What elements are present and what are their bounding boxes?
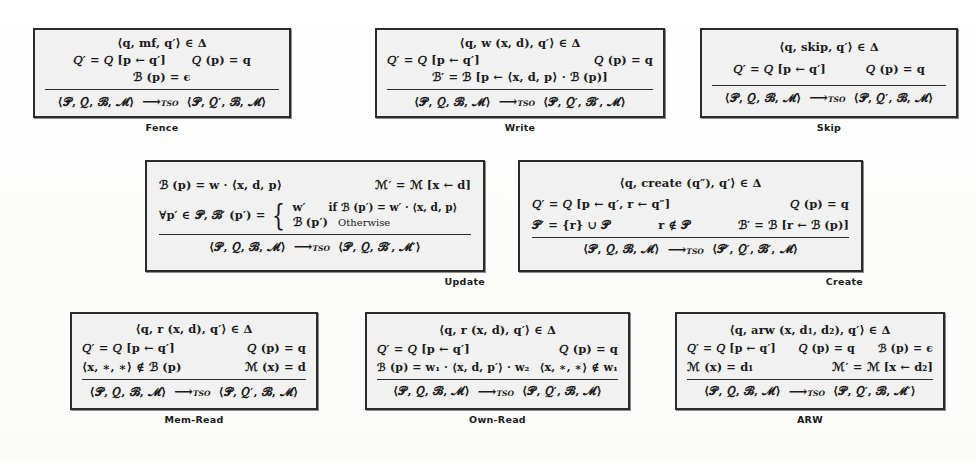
premises-create: ⟨q, create (q″), q′⟩ ∈ Δ 𝑄′ = 𝑄 [p ← q′,… [532,176,849,235]
premise-transition: ⟨q, r (x, d), q′⟩ ∈ Δ [439,323,556,337]
conclusion-create: ⟨𝒫, 𝑄, ℬ, ℳ⟩ ⟶TSO ⟨𝒫′, 𝑄′, ℬ′, ℳ⟩ [532,242,849,257]
conclusion-write: ⟨𝒫, 𝑄, ℬ, ℳ⟩ ⟶TSO ⟨𝒫, 𝑄′, ℬ′, ℳ⟩ [387,94,653,109]
config-after: ⟨𝒫, 𝑄′, ℬ, ℳ⟩ [187,95,267,109]
rule-caption-own-read: Own-Read [365,414,630,425]
premises-arw: ⟨q, arw (x, d₁, d₂), q′⟩ ∈ Δ 𝑄′ = 𝑄 [p ←… [687,323,933,377]
rule-update: ℬ (p) = w · ⟨x, d, p⟩ ℳ′ = ℳ [x ← d] ∀p′… [145,160,485,287]
tso-transition-arrow: ⟶TSO [668,242,704,257]
premise-proc-fresh: r ∉ 𝒫 [658,218,690,232]
premise-memory-read: ℳ (x) = d₁ [687,360,753,374]
premise-proc-set: 𝒫′ = {r} ∪ 𝒫 [532,218,610,232]
conclusion-skip: ⟨𝒫, 𝑄, ℬ, ℳ⟩ ⟶TSO ⟨𝒫, 𝑄′, ℬ, ℳ⟩ [712,90,946,105]
premises-update: ℬ (p) = w · ⟨x, d, p⟩ ℳ′ = ℳ [x ← d] ∀p′… [159,178,471,232]
config-after: ⟨𝒫, 𝑄′, ℬ, ℳ⟩ [522,384,602,398]
rule-write: ⟨q, w (x, d), q′⟩ ∈ Δ 𝑄′ = 𝑄 [p ← q′] 𝑄 … [375,28,665,133]
tso-transition-arrow: ⟶TSO [142,94,178,109]
rule-create: ⟨q, create (q″), q′⟩ ∈ Δ 𝑄′ = 𝑄 [p ← q′,… [518,160,863,287]
config-after: ⟨𝒫, 𝑄, ℬ′, ℳ′⟩ [338,240,421,254]
rule-caption-create: Create [518,276,863,287]
premise-state-current: 𝑄 (p) = q [798,342,854,355]
config-before: ⟨𝒫, 𝑄, ℬ, ℳ⟩ [583,242,660,256]
rule-box-update: ℬ (p) = w · ⟨x, d, p⟩ ℳ′ = ℳ [x ← d] ∀p′… [145,160,485,272]
premise-state-update: 𝑄′ = 𝑄 [p ← q′] [82,341,175,355]
premises-own-read: ⟨q, r (x, d), q′⟩ ∈ Δ 𝑄′ = 𝑄 [p ← q′] 𝑄 … [377,323,618,377]
premises-skip: ⟨q, skip, q′⟩ ∈ Δ 𝑄′ = 𝑄 [p ← q′] 𝑄 (p) … [712,40,946,83]
premise-state-current: 𝑄 (p) = q [247,341,306,355]
premise-state-current: 𝑄 (p) = q [192,53,251,67]
conclusion-update: ⟨𝒫, 𝑄, ℬ, ℳ⟩ ⟶TSO ⟨𝒫, 𝑄, ℬ′, ℳ′⟩ [159,239,471,254]
premise-buffer-empty: ℬ (p) = ϵ [133,70,190,84]
rule-box-create: ⟨q, create (q″), q′⟩ ∈ Δ 𝑄′ = 𝑄 [p ← q′,… [518,160,863,272]
premise-state-update: 𝑄′ = 𝑄 [p ← q′, r ← q″] [532,197,670,211]
conclusion-fence: ⟨𝒫, 𝑄, ℬ, ℳ⟩ ⟶TSO ⟨𝒫, 𝑄′, ℬ, ℳ⟩ [45,94,279,109]
premise-state-update: 𝑄′ = 𝑄 [p ← q′] [73,53,166,67]
config-after: ⟨𝒫, 𝑄′, ℬ′, ℳ⟩ [543,95,626,109]
tso-transition-arrow: ⟶TSO [809,90,845,105]
config-after: ⟨𝒫, 𝑄′, ℬ, ℳ⟩ [854,91,934,105]
rule-caption-arw: ARW [675,414,945,425]
premise-transition: ⟨q, mf, q′⟩ ∈ Δ [117,36,206,50]
inference-line [82,379,306,380]
premise-transition: ⟨q, skip, q′⟩ ∈ Δ [779,40,879,54]
rule-box-fence: ⟨q, mf, q′⟩ ∈ Δ 𝑄′ = 𝑄 [p ← q′] 𝑄 (p) = … [33,28,291,118]
premise-state-current: 𝑄 (p) = q [866,62,925,76]
config-before: ⟨𝒫, 𝑄, ℬ, ℳ⟩ [704,384,781,398]
config-before: ⟨𝒫, 𝑄, ℬ, ℳ⟩ [393,384,470,398]
rule-caption-fence: Fence [33,122,291,133]
inference-line [712,85,946,86]
piecewise-definition: ∀p′ ∈ 𝒫, ℬ′ (p′) = { w′ if ℬ (p′) = w′ ·… [159,200,457,229]
inference-line [159,234,471,235]
case-condition: Otherwise [338,217,390,228]
premises-write: ⟨q, w (x, d), q′⟩ ∈ Δ 𝑄′ = 𝑄 [p ← q′] 𝑄 … [387,36,653,87]
premise-no-earlier-write: ⟨x, ∗, ∗⟩ ∉ w₁ [539,361,618,374]
rule-mem-read: ⟨q, r (x, d), q′⟩ ∈ Δ 𝑄′ = 𝑄 [p ← q′] 𝑄 … [70,312,318,425]
premise-transition: ⟨q, create (q″), q′⟩ ∈ Δ [619,176,761,190]
premise-buffer-update: ℬ′ = ℬ [p ← ⟨x, d, p⟩ · ℬ (p)] [432,70,608,84]
premise-state-current: 𝑄 (p) = q [790,197,849,211]
premise-state-current: 𝑄 (p) = q [594,53,653,67]
premise-no-pending-write: ⟨x, ∗, ∗⟩ ∉ ℬ (p) [82,360,181,374]
premise-buffer-head: ℬ (p) = w · ⟨x, d, p⟩ [159,178,282,192]
premise-buffer-empty: ℬ (p) = ϵ [878,342,933,355]
conclusion-own-read: ⟨𝒫, 𝑄, ℬ, ℳ⟩ ⟶TSO ⟨𝒫, 𝑄′, ℬ, ℳ⟩ [377,384,618,399]
conclusion-mem-read: ⟨𝒫, 𝑄, ℬ, ℳ⟩ ⟶TSO ⟨𝒫, 𝑄′, ℬ, ℳ⟩ [82,384,306,399]
premise-state-update: 𝑄′ = 𝑄 [p ← q′] [387,53,480,67]
premise-state-update: 𝑄′ = 𝑄 [p ← q′] [733,62,826,76]
config-before: ⟨𝒫, 𝑄, ℬ, ℳ⟩ [90,385,167,399]
premise-state-update: 𝑄′ = 𝑄 [p ← q′] [687,342,776,355]
piecewise-prefix: ∀p′ ∈ 𝒫, ℬ′ (p′) = [159,208,265,222]
case-value: w′ [293,200,319,214]
inference-line [387,89,653,90]
rule-box-mem-read: ⟨q, r (x, d), q′⟩ ∈ Δ 𝑄′ = 𝑄 [p ← q′] 𝑄 … [70,312,318,410]
rule-box-write: ⟨q, w (x, d), q′⟩ ∈ Δ 𝑄′ = 𝑄 [p ← q′] 𝑄 … [375,28,665,118]
config-after: ⟨𝒫′, 𝑄′, ℬ′, ℳ⟩ [712,242,798,256]
premises-mem-read: ⟨q, r (x, d), q′⟩ ∈ Δ 𝑄′ = 𝑄 [p ← q′] 𝑄 … [82,322,306,377]
premise-memory-read: ℳ (x) = d [245,360,306,374]
inference-rules-figure: ⟨q, mf, q′⟩ ∈ Δ 𝑄′ = 𝑄 [p ← q′] 𝑄 (p) = … [0,0,976,463]
rule-caption-update: Update [145,276,485,287]
config-before: ⟨𝒫, 𝑄, ℬ, ℳ⟩ [209,240,286,254]
case-value: ℬ (p′) [293,215,329,229]
tso-transition-arrow: ⟶TSO [294,239,330,254]
premise-state-current: 𝑄 (p) = q [559,342,618,356]
piecewise-case: w′ if ℬ (p′) = w′ · ⟨x, d, p⟩ [293,200,458,214]
config-before: ⟨𝒫, 𝑄, ℬ, ℳ⟩ [725,91,802,105]
premise-transition: ⟨q, r (x, d), q′⟩ ∈ Δ [135,322,252,336]
rule-caption-skip: Skip [700,122,958,133]
rule-box-arw: ⟨q, arw (x, d₁, d₂), q′⟩ ∈ Δ 𝑄′ = 𝑄 [p ←… [675,312,945,410]
config-before: ⟨𝒫, 𝑄, ℬ, ℳ⟩ [58,95,135,109]
premise-state-update: 𝑄′ = 𝑄 [p ← q′] [377,342,470,356]
config-after: ⟨𝒫, 𝑄′, ℬ, ℳ⟩ [219,385,299,399]
premise-buffer-copy: ℬ′ = ℬ [r ← ℬ (p)] [738,218,849,232]
rule-fence: ⟨q, mf, q′⟩ ∈ Δ 𝑄′ = 𝑄 [p ← q′] 𝑄 (p) = … [33,28,291,133]
rule-caption-mem-read: Mem-Read [70,414,318,425]
piecewise-case: ℬ (p′) Otherwise [293,215,458,229]
premise-transition: ⟨q, arw (x, d₁, d₂), q′⟩ ∈ Δ [729,323,890,337]
rule-own-read: ⟨q, r (x, d), q′⟩ ∈ Δ 𝑄′ = 𝑄 [p ← q′] 𝑄 … [365,312,630,425]
rule-skip: ⟨q, skip, q′⟩ ∈ Δ 𝑄′ = 𝑄 [p ← q′] 𝑄 (p) … [700,28,958,133]
tso-transition-arrow: ⟶TSO [174,384,210,399]
rule-box-own-read: ⟨q, r (x, d), q′⟩ ∈ Δ 𝑄′ = 𝑄 [p ← q′] 𝑄 … [365,312,630,410]
inference-line [532,237,849,238]
config-before: ⟨𝒫, 𝑄, ℬ, ℳ⟩ [414,95,491,109]
left-brace-icon: { [272,203,285,227]
